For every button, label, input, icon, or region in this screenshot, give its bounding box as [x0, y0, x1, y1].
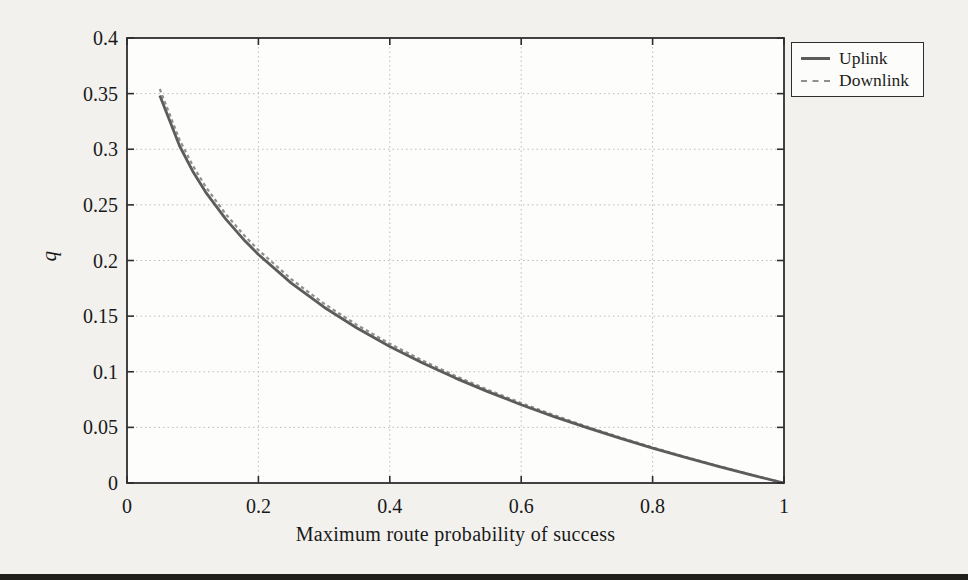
x-tick-label: 0.2 [246, 495, 271, 517]
legend-label-downlink: Downlink [839, 72, 909, 90]
y-axis-label: q [37, 241, 61, 271]
legend: Uplink Downlink [791, 42, 924, 97]
y-tick-label: 0.1 [93, 361, 118, 383]
y-tick-label: 0.15 [83, 305, 118, 327]
x-axis-label: Maximum route probability of success [127, 523, 784, 546]
x-tick-label: 0.6 [509, 495, 534, 517]
legend-entry-uplink: Uplink [801, 50, 923, 68]
y-tick-label: 0.25 [83, 194, 118, 216]
x-tick-label: 1 [779, 495, 789, 517]
page-footer-bar [0, 574, 968, 580]
legend-entry-downlink: Downlink [801, 72, 923, 90]
legend-label-uplink: Uplink [839, 50, 888, 68]
uplink-line-swatch [801, 57, 830, 60]
y-tick-label: 0.4 [93, 27, 118, 49]
x-tick-label: 0.4 [377, 495, 402, 517]
y-tick-label: 0.2 [93, 250, 118, 272]
x-tick-label: 0.8 [640, 495, 665, 517]
downlink-line-swatch [801, 80, 830, 82]
y-tick-label: 0.05 [83, 416, 118, 438]
y-tick-label: 0.35 [83, 83, 118, 105]
y-tick-label: 0 [108, 472, 118, 494]
x-tick-label: 0 [122, 495, 132, 517]
y-tick-label: 0.3 [93, 138, 118, 160]
